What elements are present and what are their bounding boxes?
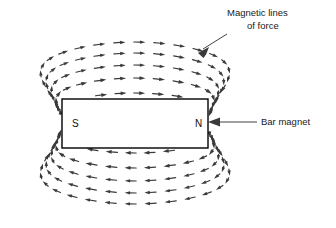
field-arrowhead-icon [227,68,230,74]
field-arrowhead-icon [200,168,206,172]
field-arrowhead-icon [52,189,58,193]
field-arrowhead-icon [81,57,87,60]
field-arrowhead-icon [179,67,185,70]
field-arrowhead-icon [45,74,48,80]
field-arrowhead-icon [180,44,186,47]
field-arrowhead-icon [217,155,220,161]
magnetic-lines-label-line1: Magnetic lines [227,7,288,18]
field-arrowhead-icon [85,199,91,202]
field-arrowhead-icon [62,51,68,54]
field-line-dash [169,190,176,191]
field-arrowhead-icon [195,84,201,88]
field-arrowhead-icon [144,179,149,182]
field-line-dash [169,165,176,166]
field-line-dash [94,55,101,56]
field-arrowhead-icon [101,93,107,97]
field-arrowhead-icon [100,43,106,46]
north-pole-label: N [195,118,202,129]
field-line-dash [94,67,101,68]
field-arrowhead-icon [140,51,145,54]
field-arrowhead-icon [221,158,224,164]
field-line-dash [110,167,117,168]
field-arrowhead-icon [46,82,49,88]
field-arrowhead-icon [85,175,91,178]
field-arrowhead-icon [144,166,150,170]
field-arrowhead-icon [215,83,219,89]
field-arrowhead-icon [140,40,145,43]
field-arrowhead-icon [183,160,189,164]
field-arrowhead-icon [139,91,145,95]
field-line-dash [154,54,161,55]
field-arrowhead-icon [184,197,190,200]
field-arrowhead-icon [67,195,73,198]
field-line-dash [169,201,176,202]
field-line-dash [89,200,96,201]
field-arrowhead-icon [201,180,207,184]
field-line-dash [153,79,160,80]
field-arrowhead-icon [105,165,111,169]
field-arrowhead-icon [120,52,125,55]
field-arrowhead-icon [65,86,71,90]
field-arrowhead-icon [125,202,130,205]
field-arrowhead-icon [67,183,73,186]
field-arrowhead-icon [69,159,75,163]
field-arrowhead-icon [227,77,230,83]
field-arrowhead-icon [51,157,55,163]
field-arrowhead-icon [106,150,112,154]
field-arrowhead-icon [164,189,170,192]
field-line-dash [153,94,160,95]
field-line-dash [154,43,161,44]
field-arrowhead-icon [211,65,217,69]
field-line-dash [111,152,118,153]
field-arrowhead-icon [56,165,62,169]
field-arrowhead-icon [202,192,208,195]
field-arrowhead-icon [125,179,130,182]
field-arrowhead-icon [158,92,164,96]
field-arrowhead-icon [105,201,111,204]
magnetic-lines-label-line2: of force [247,20,279,31]
field-arrowhead-icon [68,171,74,174]
field-arrowhead-icon [105,178,111,181]
field-line-dash [110,180,117,181]
field-line-dash [169,178,176,179]
field-line-dash [193,48,199,50]
field-arrowhead-icon [196,72,202,75]
magnetic-lines-annotation: Magnetic lines of force [198,7,288,58]
field-line-dash [90,177,97,178]
field-arrowhead-icon [139,76,145,80]
field-arrowhead-icon [208,77,214,81]
field-arrowhead-icon [160,42,166,45]
field-arrowhead-icon [177,94,183,98]
field-arrowhead-icon [145,202,150,205]
field-arrowhead-icon [40,172,43,178]
field-arrowhead-icon [80,46,86,49]
field-arrowhead-icon [105,190,111,193]
field-arrowhead-icon [45,161,48,166]
field-arrowhead-icon [222,80,225,85]
field-arrowhead-icon [184,185,190,188]
field-arrowhead-icon [183,173,189,176]
field-arrowhead-icon [179,55,185,58]
bar-magnet-arrowhead-icon [208,118,220,127]
bar-magnet-annotation: Bar magnet [208,116,310,127]
field-line-dash [71,196,77,198]
field-arrowhead-icon [222,167,225,173]
field-arrowhead-icon [125,166,131,170]
field-arrowhead-icon [216,186,221,190]
south-pole-label: S [72,118,79,129]
field-line-dash [153,66,160,67]
bar-magnet-body [62,99,208,148]
field-arrowhead-icon [100,79,106,83]
field-arrowhead-icon [225,178,229,184]
field-arrowhead-icon [199,155,205,159]
field-line-dash [109,192,116,193]
field-line-dash [168,150,175,151]
field-line-dash [188,174,194,175]
field-arrowhead-icon [144,191,149,194]
field-arrowhead-icon [143,151,149,155]
field-arrowhead-icon [163,149,169,153]
field-arrowhead-icon [160,65,166,68]
field-arrowhead-icon [49,56,54,60]
magnetic-lines-leader-line [203,34,227,49]
field-arrowhead-icon [120,64,125,67]
